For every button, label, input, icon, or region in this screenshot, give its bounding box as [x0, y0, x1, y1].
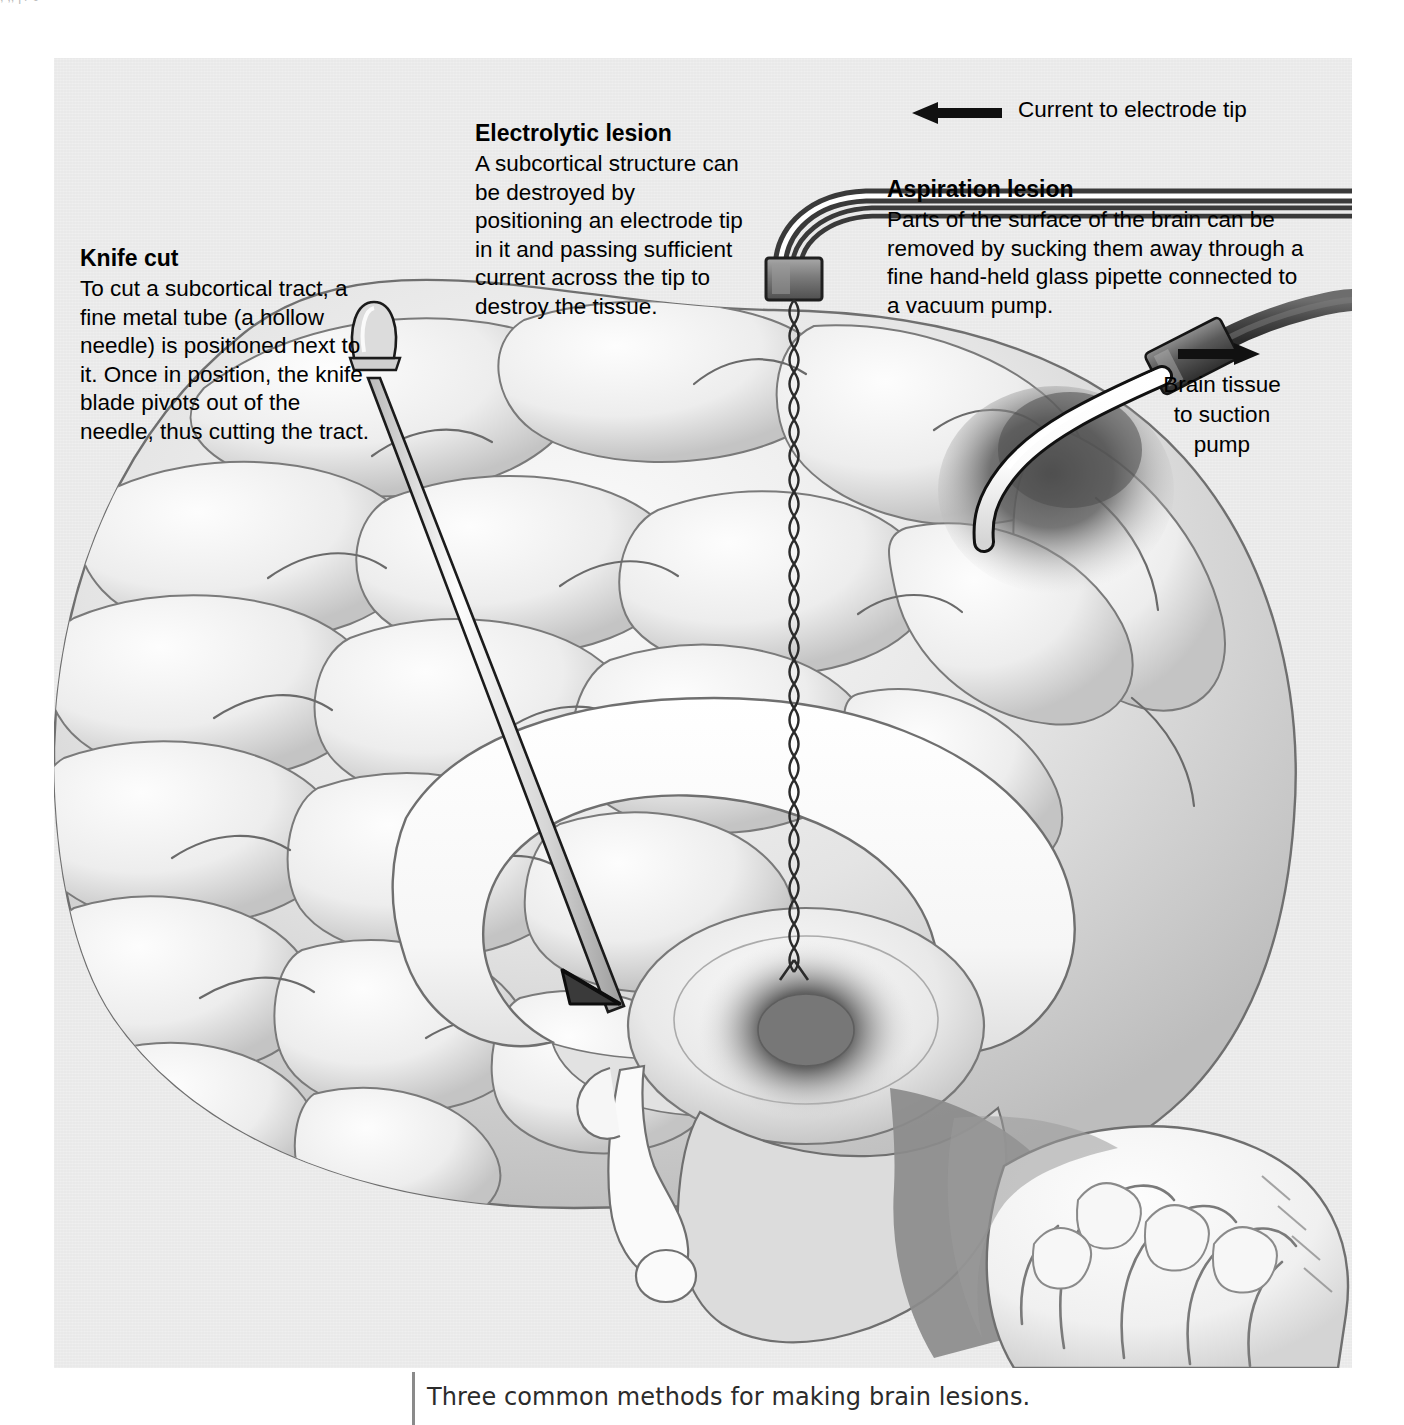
- label-current-to-electrode-tip: Current to electrode tip: [1018, 96, 1247, 124]
- figure-page: , ,, | / 0: [0, 0, 1404, 1425]
- callout-knife-cut: Knife cut To cut a subcortical tract, a …: [80, 243, 380, 446]
- callout-body-aspiration-lesion: Parts of the surface of the brain can be…: [887, 206, 1307, 320]
- callout-body-electrolytic-lesion: A subcortical structure can be destroyed…: [475, 150, 743, 321]
- label-brain-tissue-to-suction-pump: Brain tissueto suctionpump: [1142, 370, 1302, 460]
- knife-needle: [350, 302, 624, 1012]
- top-bleed-label: , ,, | / 0: [0, 0, 40, 4]
- suction-direction-arrow-icon: [1178, 343, 1260, 365]
- callout-aspiration-lesion: Aspiration lesion Parts of the surface o…: [887, 174, 1307, 320]
- illustration-panel: Knife cut To cut a subcortical tract, a …: [54, 58, 1352, 1368]
- callout-heading-knife-cut: Knife cut: [80, 243, 380, 273]
- callout-heading-aspiration-lesion: Aspiration lesion: [887, 174, 1307, 204]
- electrode-connector: [766, 258, 822, 300]
- callout-body-knife-cut: To cut a subcortical tract, a fine metal…: [80, 275, 380, 446]
- figure-caption: Three common methods for making brain le…: [427, 1381, 1327, 1413]
- caption-divider-rule: [412, 1372, 415, 1425]
- current-direction-arrow-icon: [912, 102, 1002, 124]
- callout-heading-electrolytic-lesion: Electrolytic lesion: [475, 118, 743, 148]
- callout-electrolytic-lesion: Electrolytic lesion A subcortical struct…: [475, 118, 743, 321]
- top-bleed-text: , ,, | / 0: [0, 0, 1404, 10]
- electrode-shaft: [780, 300, 808, 980]
